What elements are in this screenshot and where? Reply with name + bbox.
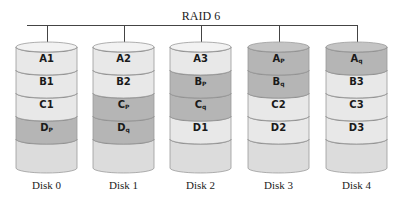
block-subscript: P <box>48 126 52 133</box>
block-index: 3 <box>201 53 208 64</box>
disk-label: Disk 3 <box>248 179 309 191</box>
block-label: B2 <box>93 76 154 87</box>
block-subscript: q <box>280 80 284 87</box>
block-label: DP <box>16 122 77 133</box>
block-name: B <box>39 76 47 87</box>
disk-label: Disk 0 <box>16 179 77 191</box>
disk-top <box>93 42 154 52</box>
block-subscript: q <box>126 126 130 133</box>
block-name: D <box>117 122 125 133</box>
disk-label: Disk 1 <box>93 179 154 191</box>
block-label: B3 <box>326 76 387 87</box>
block-label: A3 <box>170 53 231 64</box>
block-label: A2 <box>93 53 154 64</box>
diagram-title: RAID 6 <box>0 9 402 24</box>
block-index: 1 <box>47 99 54 110</box>
block-subscript: q <box>202 103 206 110</box>
block-label: A1 <box>16 53 77 64</box>
disk-4: AqB3C3D3 <box>326 42 387 174</box>
block-name: B <box>273 76 281 87</box>
block-label: CP <box>93 99 154 110</box>
block-name: A <box>116 53 124 64</box>
block-name: D <box>193 122 201 133</box>
block-subscript: P <box>280 57 284 64</box>
block-name: B <box>349 76 357 87</box>
block-index: 3 <box>357 122 364 133</box>
block-name: A <box>39 53 47 64</box>
block-label: AP <box>248 53 309 64</box>
block-name: D <box>349 122 357 133</box>
block-subscript: P <box>125 103 129 110</box>
disk-top <box>326 42 387 52</box>
block-name: A <box>193 53 201 64</box>
disk-top <box>248 42 309 52</box>
block-index: 3 <box>357 76 364 87</box>
block-name: C <box>195 99 202 110</box>
disk-0: A1B1C1DP <box>16 42 77 174</box>
block-index: 2 <box>124 76 131 87</box>
block-label: Cq <box>170 99 231 110</box>
block-name: B <box>194 76 202 87</box>
disk-top <box>170 42 231 52</box>
bus-horizontal-line <box>27 25 358 26</box>
block-name: C <box>271 99 278 110</box>
disk-2: A3BPCqD1 <box>170 42 231 174</box>
disk-3: APBqC2D2 <box>248 42 309 174</box>
block-index: 2 <box>124 53 131 64</box>
block-label: D1 <box>170 122 231 133</box>
block-name: B <box>116 76 124 87</box>
block-index: 2 <box>279 122 286 133</box>
block-name: C <box>118 99 125 110</box>
block-subscript: q <box>358 57 362 64</box>
block-label: B1 <box>16 76 77 87</box>
block-index: 1 <box>47 53 54 64</box>
block-label: D2 <box>248 122 309 133</box>
block-label: BP <box>170 76 231 87</box>
block-name: C <box>39 99 46 110</box>
block-index: 2 <box>279 99 286 110</box>
block-index: 1 <box>47 76 54 87</box>
block-label: Aq <box>326 53 387 64</box>
block-label: C2 <box>248 99 309 110</box>
disk-1: A2B2CPDq <box>93 42 154 174</box>
block-name: D <box>271 122 279 133</box>
block-label: Dq <box>93 122 154 133</box>
block-label: D3 <box>326 122 387 133</box>
block-label: Bq <box>248 76 309 87</box>
block-index: 3 <box>357 99 364 110</box>
disk-top <box>16 42 77 52</box>
block-name: A <box>272 53 280 64</box>
block-label: C1 <box>16 99 77 110</box>
block-index: 1 <box>201 122 208 133</box>
block-name: C <box>349 99 356 110</box>
block-label: C3 <box>326 99 387 110</box>
block-subscript: P <box>202 80 206 87</box>
disk-label: Disk 4 <box>326 179 387 191</box>
disk-label: Disk 2 <box>170 179 231 191</box>
